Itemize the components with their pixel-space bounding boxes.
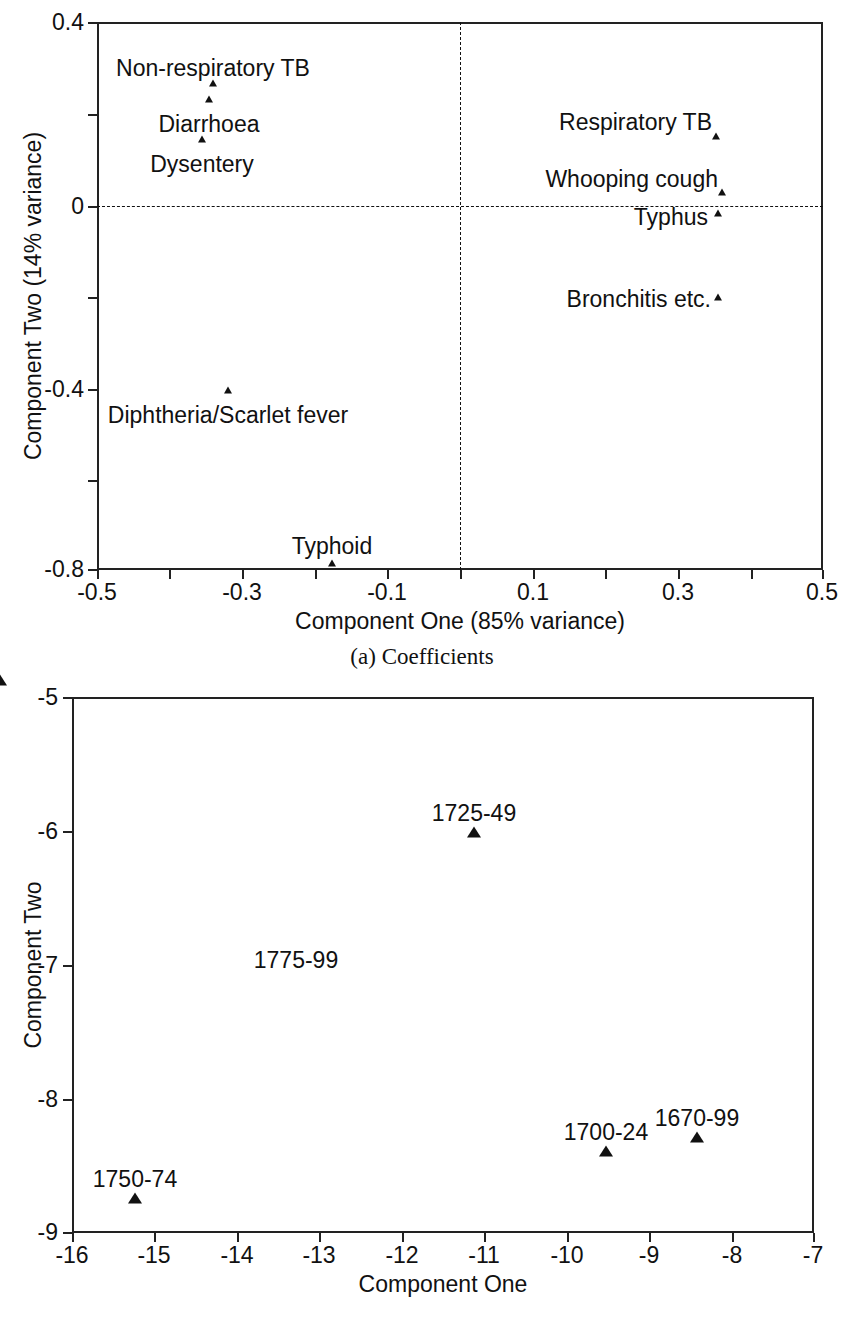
x-tick-label-a: 0.1 [517, 581, 549, 604]
data-point-label: 1775-99 [254, 949, 338, 972]
data-point-label: 1670-99 [655, 1107, 739, 1130]
y-tick-a [88, 569, 97, 571]
x-tick-a [605, 570, 607, 579]
data-point-label: Dysentery [150, 153, 254, 176]
y-tick-b [63, 1099, 72, 1101]
x-tick-label-b: -11 [468, 1244, 500, 1267]
y-tick-label-a: 0 [40, 195, 84, 218]
data-point-marker [205, 96, 213, 103]
panel-caption-a: (a) Coefficients [350, 644, 493, 670]
data-point-marker [714, 210, 722, 217]
x-tick-b [649, 1233, 651, 1242]
data-point-marker [690, 1132, 704, 1143]
x-tick-b [732, 1233, 734, 1242]
x-tick-b [484, 1233, 486, 1242]
y-tick-b [63, 697, 72, 699]
x-tick-b [813, 1233, 815, 1242]
x-tick-label-b: -9 [639, 1244, 659, 1267]
y-tick-a [88, 389, 97, 391]
x-tick-label-b: -8 [722, 1244, 742, 1267]
x-tick-a [242, 570, 244, 579]
x-tick-a [97, 570, 99, 579]
x-tick-a [751, 570, 753, 579]
y-tick-a [88, 480, 97, 482]
x-tick-b [402, 1233, 404, 1242]
data-point-label: Non-respiratory TB [116, 57, 310, 80]
data-point-marker [198, 136, 206, 143]
x-tick-b [154, 1233, 156, 1242]
data-point-label: Respiratory TB [559, 111, 712, 134]
data-point-marker [128, 1193, 142, 1204]
y-tick-label-b: -5 [20, 686, 58, 709]
data-point-label: Whooping cough [545, 168, 718, 191]
x-tick-label-a: -0.5 [77, 581, 117, 604]
x-tick-label-b: -15 [137, 1244, 170, 1267]
x-tick-a [315, 570, 317, 579]
y-tick-b [63, 1232, 72, 1234]
y-tick-label-b: -9 [20, 1221, 58, 1244]
y-tick-a [88, 297, 97, 299]
x-axis-title-b: Component One [359, 1273, 528, 1296]
data-point-label: 1750-74 [93, 1168, 177, 1191]
x-tick-label-b: -16 [55, 1244, 88, 1267]
y-tick-label-b: -6 [20, 820, 58, 843]
data-point-label: 1700-24 [564, 1121, 648, 1144]
x-tick-b [319, 1233, 321, 1242]
data-point-label: 1725-49 [432, 802, 516, 825]
data-point-label: Bronchitis etc. [567, 288, 711, 311]
data-point-marker [718, 189, 726, 196]
x-tick-label-a: -0.1 [367, 581, 407, 604]
x-tick-a [169, 570, 171, 579]
x-tick-label-b: -10 [550, 1244, 583, 1267]
x-tick-label-b: -13 [302, 1244, 335, 1267]
x-tick-label-b: -12 [385, 1244, 418, 1267]
x-axis-title-a: Component One (85% variance) [295, 610, 625, 633]
x-tick-a [533, 570, 535, 579]
data-point-label: Diarrhoea [159, 113, 260, 136]
y-tick-a [88, 114, 97, 116]
data-point-marker [714, 294, 722, 301]
data-point-marker [328, 560, 336, 567]
y-tick-label-b: -8 [20, 1088, 58, 1111]
data-point-label: Typhoid [292, 535, 373, 558]
y-axis-title-a: Component Two (14% variance) [22, 132, 45, 460]
data-point-label: Diphtheria/Scarlet fever [108, 404, 348, 427]
data-point-marker [467, 827, 481, 838]
x-tick-label-a: 0.5 [806, 581, 838, 604]
y-tick-a [88, 206, 97, 208]
x-tick-b [72, 1233, 74, 1242]
x-tick-a [822, 570, 824, 579]
panel-coefficients: -0.5 -0.3 -0.1 0.1 0.3 0.5 0.4 0 -0.4 -0… [0, 0, 845, 680]
x-tick-label-a: -0.3 [222, 581, 262, 604]
y-tick-a [88, 22, 97, 24]
x-tick-a [460, 570, 462, 579]
panel-scores: -16 -15 -14 -13 -12 -11 -10 -9 -8 -7 -5 … [0, 680, 845, 1329]
data-point-marker [599, 1146, 613, 1157]
x-tick-label-b: -7 [803, 1244, 823, 1267]
x-tick-a [387, 570, 389, 579]
y-tick-label-a: -0.8 [28, 558, 84, 581]
figure-pca-plots: -0.5 -0.3 -0.1 0.1 0.3 0.5 0.4 0 -0.4 -0… [0, 0, 845, 1329]
data-point-label: Typhus [634, 206, 708, 229]
x-tick-label-a: 0.3 [662, 581, 694, 604]
x-tick-b [237, 1233, 239, 1242]
plot-area-b [72, 697, 814, 1233]
y-axis-title-b: Component Two [22, 881, 45, 1048]
x-tick-a [678, 570, 680, 579]
x-tick-label-b: -14 [220, 1244, 253, 1267]
data-point-marker [712, 133, 720, 140]
data-point-marker [224, 387, 232, 394]
x-tick-b [567, 1233, 569, 1242]
data-point-marker [0, 675, 7, 686]
y-tick-b [63, 965, 72, 967]
y-tick-label-a: 0.4 [40, 11, 84, 34]
y-tick-b [63, 831, 72, 833]
